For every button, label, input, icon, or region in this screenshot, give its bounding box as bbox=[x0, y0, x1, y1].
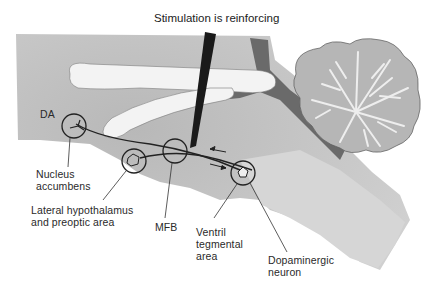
title-stimulation-reinforcing: Stimulation is reinforcing bbox=[154, 12, 279, 24]
label-ventral-tegmental-area: Ventril tegmental area bbox=[196, 226, 243, 262]
label-dopaminergic-neuron: Dopaminergic neuron bbox=[268, 254, 334, 278]
label-nucleus-accumbens: Nucleus accumbens bbox=[36, 168, 91, 192]
label-mfb: MFB bbox=[155, 221, 177, 233]
label-lateral-hypothalamus: Lateral hypothalamus and preoptic area bbox=[31, 204, 133, 228]
label-da: DA bbox=[40, 108, 55, 120]
brain-reward-pathway-diagram: Stimulation is reinforcing DA Nucleus ac… bbox=[0, 0, 440, 293]
brainstem bbox=[240, 150, 405, 268]
